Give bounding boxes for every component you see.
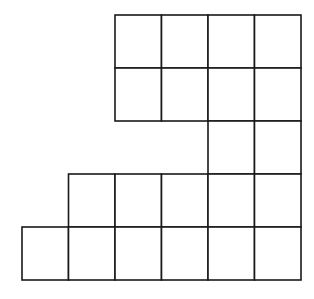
grid-square xyxy=(255,15,302,68)
grid-square xyxy=(255,121,302,174)
grid-square xyxy=(162,174,209,227)
grid-square xyxy=(115,68,162,121)
square-grid-diagram xyxy=(0,0,314,299)
grid-square xyxy=(208,68,255,121)
grid-square xyxy=(208,174,255,227)
grid-square xyxy=(115,174,162,227)
grid-square xyxy=(162,15,209,68)
grid-square xyxy=(208,227,255,280)
grid-square xyxy=(162,227,209,280)
grid-square xyxy=(255,174,302,227)
grid-square xyxy=(162,68,209,121)
grid-square xyxy=(255,227,302,280)
grid-square xyxy=(115,227,162,280)
grid-square xyxy=(69,227,116,280)
grid-square xyxy=(208,121,255,174)
grid-square xyxy=(208,15,255,68)
grid-square xyxy=(69,174,116,227)
grid-square xyxy=(255,68,302,121)
grid-square xyxy=(22,227,69,280)
grid-square xyxy=(115,15,162,68)
